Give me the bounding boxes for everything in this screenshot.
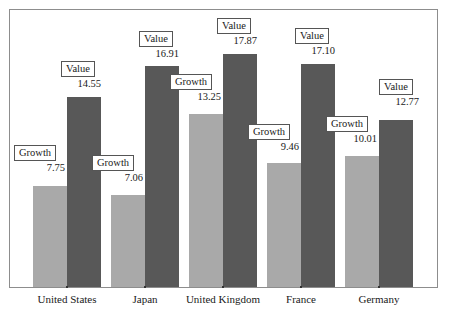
axis-label-france: France [286,292,316,306]
axis-tick-germany [378,286,380,288]
callout-value-united-states: Value [61,61,95,77]
callout-value-united-kingdom: Value [217,18,251,34]
datalabel-growth-japan: 7.06 [92,172,143,184]
bar-value-germany [379,120,413,287]
bar-growth-united-states [33,186,67,287]
bar-value-france [301,64,335,287]
bar-growth-united-kingdom [189,114,223,287]
callout-growth-germany: Growth [326,116,368,132]
bar-chart: Growth 7.75 Value 14.55 Growth 7.06 Valu… [0,0,449,311]
x-axis-line [10,287,438,288]
datalabel-value-united-states: 14.55 [56,78,101,90]
bar-value-united-states [67,97,101,287]
axis-label-united-kingdom: United Kingdom [186,292,260,306]
datalabel-growth-france: 9.46 [248,141,299,153]
datalabel-value-germany: 12.77 [374,96,419,108]
callout-growth-france: Growth [248,124,290,140]
datalabel-value-japan: 16.91 [134,48,179,60]
axis-tick-japan [144,286,146,288]
datalabel-growth-united-states: 7.75 [14,162,65,174]
axis-tick-united-kingdom [222,286,224,288]
callout-value-germany: Value [379,79,413,95]
bar-growth-france [267,163,301,287]
axis-tick-united-states [66,286,68,288]
bar-growth-japan [111,195,145,287]
datalabel-growth-united-kingdom: 13.25 [170,91,221,103]
axis-tick-france [300,286,302,288]
bar-value-united-kingdom [223,54,257,287]
datalabel-value-united-kingdom: 17.87 [212,35,257,47]
bar-growth-germany [345,156,379,287]
callout-value-japan: Value [139,31,173,47]
callout-growth-united-kingdom: Growth [170,74,212,90]
axis-label-united-states: United States [38,292,97,306]
axis-label-japan: Japan [132,292,157,306]
callout-growth-japan: Growth [92,155,134,171]
datalabel-growth-germany: 10.01 [326,133,377,145]
axis-label-germany: Germany [359,292,400,306]
datalabel-value-france: 17.10 [290,45,335,57]
callout-value-france: Value [295,28,329,44]
callout-growth-united-states: Growth [14,145,56,161]
